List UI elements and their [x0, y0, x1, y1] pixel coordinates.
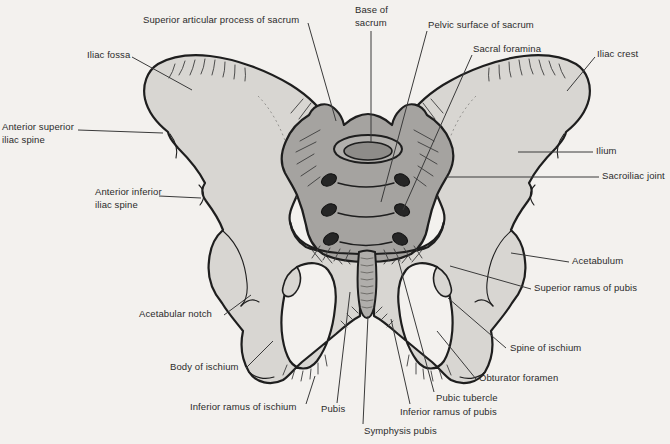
leader-symphysis-pubis [363, 316, 368, 424]
symphysis-pubis-shape [358, 251, 377, 319]
sacrum [282, 104, 454, 262]
pelvis-illustration [0, 0, 670, 444]
leader-inferior-ramus-of-ischium [306, 376, 315, 404]
leader-anterior-inferior-iliac-spine [159, 196, 201, 198]
pelvis-diagram: Superior articular process of sacrumBase… [0, 0, 670, 444]
sacrum-outline [282, 104, 454, 262]
sacral-canal-opening [344, 142, 392, 160]
leader-anterior-superior-iliac-spine [78, 130, 163, 133]
